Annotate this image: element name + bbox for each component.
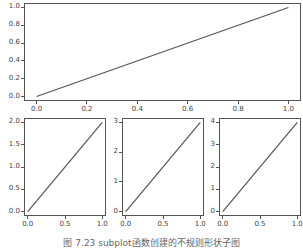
figure-caption: 图 7.23 subplot函数创建的不规则形状子图	[0, 236, 303, 249]
